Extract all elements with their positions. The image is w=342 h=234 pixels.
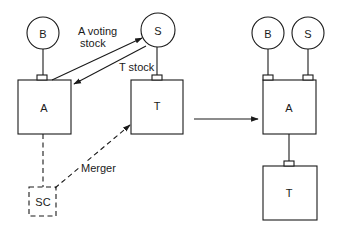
after-node-b: B: [252, 17, 284, 75]
after-structure: B S A T: [252, 17, 324, 220]
after-a-tab-b: [263, 75, 273, 80]
sc-label: SC: [35, 196, 50, 208]
after-a-label: A: [285, 102, 293, 114]
after-node-s: S: [292, 17, 324, 75]
a-label: A: [40, 102, 48, 114]
a-voting-stock-label-line2: stock: [80, 37, 106, 49]
a-voting-stock-label-line1: A voting: [78, 25, 117, 37]
t-label: T: [154, 100, 161, 112]
b-label: B: [39, 28, 46, 40]
after-node-t: T: [263, 161, 317, 220]
before-node-t: T: [131, 75, 183, 134]
after-s-label: S: [304, 28, 311, 40]
t-share-tab: [152, 75, 162, 80]
merger-diagram: B S A T A voting stock T stock: [0, 0, 342, 234]
after-t-label: T: [286, 187, 293, 199]
a-share-tab: [37, 75, 47, 80]
before-node-sc: SC: [29, 187, 56, 216]
after-a-tab-s: [303, 75, 313, 80]
merger-label: Merger: [81, 162, 116, 174]
before-node-a: A: [18, 75, 71, 134]
before-structure: B S A T A voting stock T stock: [18, 13, 183, 216]
s-label: S: [154, 25, 161, 37]
t-stock-label: T stock: [119, 61, 155, 73]
after-node-a: A: [263, 75, 316, 134]
after-b-label: B: [264, 28, 271, 40]
after-t-tab: [284, 161, 294, 166]
before-node-b: B: [27, 17, 59, 75]
